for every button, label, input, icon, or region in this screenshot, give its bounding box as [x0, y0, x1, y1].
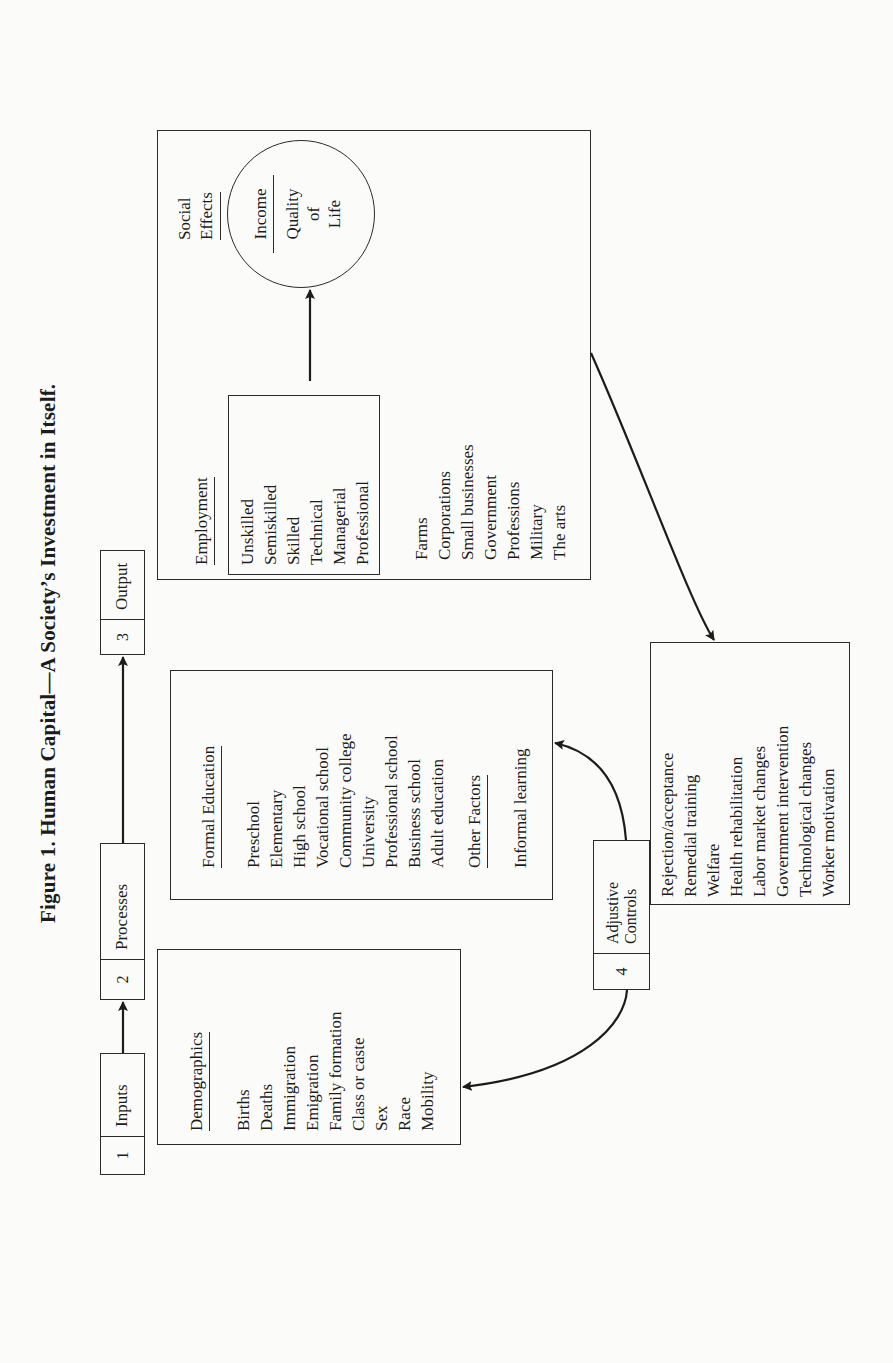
- connector-arrows: [0, 0, 893, 1363]
- diagram-canvas: Figure 1. Human Capital—A Society’s Inve…: [0, 0, 893, 1363]
- arrow-controls-to-inputs: [463, 990, 627, 1087]
- arrow-output-to-adjustive-controls: [591, 353, 714, 640]
- arrow-controls-to-processes: [555, 743, 626, 840]
